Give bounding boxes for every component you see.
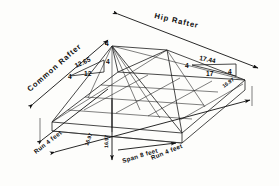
hip-roof-diagram: Common Rafter 12.65 4 12 4 Hip Rafter 17… bbox=[0, 0, 279, 186]
common-rise-label: 4 bbox=[106, 58, 110, 65]
hip-apex-rise-label: 4 bbox=[228, 68, 232, 75]
hip-rafter-label: Hip Rafter bbox=[154, 11, 200, 30]
roof-base-plate bbox=[52, 72, 245, 143]
common-run-label: 12 bbox=[84, 70, 92, 77]
hip-run-label: 17 bbox=[206, 70, 214, 77]
diagram-canvas: Common Rafter 12.65 4 12 4 Hip Rafter 17… bbox=[0, 0, 279, 186]
common-run-left-tick: 4 bbox=[68, 73, 72, 80]
hip-hypotenuse-label: 17.44 bbox=[199, 54, 217, 64]
height-dimension-label: 16.97 bbox=[103, 135, 109, 148]
hip-rise-label: 4 bbox=[185, 62, 189, 69]
hip-diagonal-label: 16.97 bbox=[221, 76, 235, 89]
ridge-rise-label: 4 bbox=[105, 40, 109, 47]
